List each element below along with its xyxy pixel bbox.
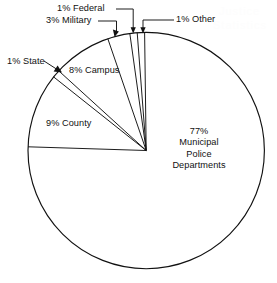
leader-line-federal bbox=[116, 9, 133, 31]
leader-line-other bbox=[143, 20, 174, 31]
slice-label-county: 9% County bbox=[46, 118, 91, 129]
slice-divider-county-state bbox=[54, 77, 147, 151]
slice-label-municipal-line-4: Departments bbox=[160, 160, 238, 171]
slice-label-municipal-line-3: Police bbox=[160, 149, 238, 160]
background-ghost-text-2: Statistics bbox=[213, 18, 267, 32]
slice-label-municipal-line-1: 77% bbox=[160, 126, 238, 137]
slice-label-state: 1% State bbox=[7, 56, 45, 67]
slice-divider-military-federal bbox=[130, 33, 146, 150]
slice-label-municipal-line-2: Municipal bbox=[160, 137, 238, 148]
slice-label-other: 1% Other bbox=[176, 14, 215, 25]
slice-divider-municipal-county bbox=[28, 147, 146, 151]
pie-chart-figure: 1% Federal 3% Military 1% Other 1% State… bbox=[0, 0, 277, 283]
slice-label-municipal-police-departments: 77% Municipal Police Departments bbox=[160, 126, 238, 172]
slice-label-campus: 8% Campus bbox=[69, 65, 120, 76]
background-ghost-text-1: Justice bbox=[219, 4, 260, 18]
slice-divider-campus-military bbox=[108, 39, 146, 151]
slice-divider-state-campus bbox=[59, 71, 146, 151]
slice-label-federal: 1% Federal bbox=[57, 3, 104, 14]
slice-label-military: 3% Military bbox=[46, 15, 91, 26]
